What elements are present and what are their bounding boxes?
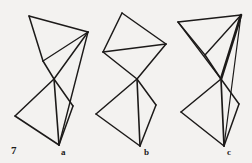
edge-waist-to-top_right — [137, 44, 166, 79]
panel-c-drawing — [178, 15, 241, 146]
edge-waist-to-lower_left — [96, 79, 137, 114]
edge-top_apex-to-mid_left — [103, 13, 122, 52]
edge-waist-to-lower_left — [181, 79, 221, 112]
edge-top_left-to-top_right — [178, 15, 241, 22]
figure-plate: 7 a b c — [0, 0, 252, 163]
panel-label-c: c — [227, 148, 231, 157]
plate-number-label: 7 — [11, 145, 17, 156]
edge-waist-to-top_right — [54, 32, 88, 79]
line-drawing-canvas — [0, 0, 252, 163]
edge-mid_left-to-waist — [43, 61, 54, 79]
edge-top_apex-to-top_right — [122, 13, 166, 44]
edge-lower_left-to-bottom — [96, 114, 140, 146]
panel-label-b: b — [144, 148, 149, 157]
panel-label-a: a — [61, 148, 66, 157]
edge-top_right-to-waist — [221, 15, 241, 79]
edge-bottom-to-lower_right — [140, 105, 156, 146]
edge-lower_left-to-bottom — [181, 112, 224, 146]
edge-mid_left-to-waist — [205, 55, 221, 79]
edge-top_left-to-mid_left — [29, 16, 43, 61]
edge-waist-to-lower_left — [15, 79, 54, 116]
edge-mid_left-to-top_right — [103, 44, 166, 52]
edge-lower_right-to-waist — [137, 79, 156, 105]
edge-waist-to-bottom — [54, 79, 59, 145]
edge-top_right-to-bottom — [59, 32, 88, 145]
edge-top_right-to-bottom — [224, 15, 241, 146]
edge-waist-to-bottom — [221, 79, 224, 146]
edge-lower_left-to-bottom — [15, 116, 59, 145]
edge-mid_left-to-waist — [103, 52, 137, 79]
edge-waist-to-bottom — [137, 79, 140, 146]
edge-top_left-to-top_right — [29, 16, 88, 32]
panel-a-drawing — [15, 16, 88, 145]
panel-b-drawing — [96, 13, 166, 146]
